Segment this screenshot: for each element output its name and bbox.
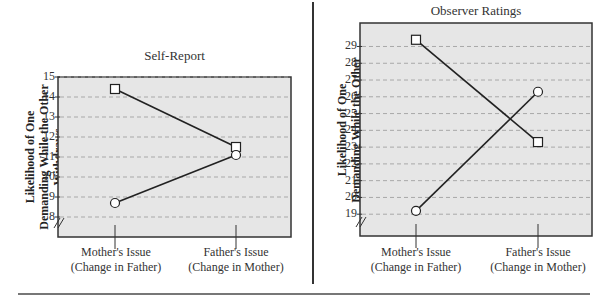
- category-line: (Change in Father): [356, 260, 476, 275]
- circle-marker: [534, 87, 543, 96]
- category-line: (Change in Mother): [478, 260, 598, 275]
- square-marker: [534, 138, 543, 147]
- circle-marker: [412, 206, 421, 215]
- category-line: Mother's Issue: [356, 245, 476, 260]
- x-category-label: Mother's Issue (Change in Father): [356, 245, 476, 275]
- plot-background: [360, 23, 592, 236]
- chart-observer-ratings: Observer Ratings Likelihood of One Deman…: [0, 0, 603, 296]
- bottom-rule: [18, 293, 590, 295]
- x-category-label: Father's Issue (Change in Mother): [478, 245, 598, 275]
- square-marker: [412, 35, 421, 44]
- category-line: Father's Issue: [478, 245, 598, 260]
